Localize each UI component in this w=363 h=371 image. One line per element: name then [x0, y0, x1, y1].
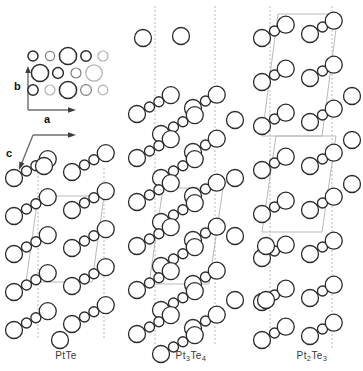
atom-circle [145, 234, 155, 244]
atom-circle [22, 318, 32, 328]
atom-circle [135, 30, 152, 47]
atom-circle [227, 228, 244, 245]
atom-circle [344, 176, 361, 193]
panel-ptte [6, 145, 115, 349]
atom-circle [302, 246, 319, 263]
atom-circle [325, 56, 342, 73]
atom-circle [277, 16, 294, 33]
atom-circle [302, 290, 319, 307]
atom-circle [254, 30, 271, 47]
atom-circle [80, 160, 90, 170]
atom-circle [344, 132, 361, 149]
atom-group-ptte [6, 145, 115, 349]
caption-pt3te4: Pt3Te4 [135, 350, 247, 361]
atom-circle [277, 280, 294, 297]
axis-label-a-top: a [44, 113, 50, 125]
atom-circle [22, 280, 32, 290]
atom-circle [258, 292, 275, 309]
atom-circle [22, 166, 32, 176]
atom-circle [254, 118, 271, 135]
atom-circle [80, 236, 90, 246]
atom-circle [277, 318, 294, 335]
atom-circle [162, 307, 179, 324]
atom-circle [325, 188, 342, 205]
atom-circle [208, 306, 225, 323]
atom-circle [186, 239, 203, 256]
atom-circle [6, 284, 23, 301]
atom-circle [325, 314, 342, 331]
atom-circle [22, 242, 32, 252]
atom-circle [227, 292, 244, 309]
figure-canvas: b a c PtTe Pt3Te4 Pt2Te3 [0, 0, 363, 371]
atom-circle [129, 106, 146, 123]
atom-circle [302, 202, 319, 219]
atom-circle [97, 221, 114, 238]
atom-circle [39, 227, 56, 244]
atom-circle [302, 70, 319, 87]
atom-circle [80, 312, 90, 322]
atom-circle [186, 283, 203, 300]
atom-circle [6, 246, 23, 263]
caption-ptte: PtTe [10, 350, 122, 361]
atom-circle [129, 326, 146, 343]
atom-circle [254, 74, 271, 91]
atom-circle [277, 236, 294, 253]
atom-circle [227, 170, 244, 187]
atom-circle [6, 170, 23, 187]
atom-circle [145, 102, 155, 112]
atom-circle [97, 183, 114, 200]
atom-circle [208, 262, 225, 279]
atom-circle [325, 144, 342, 161]
panel-pt3te4 [129, 6, 244, 363]
panel-pt2te3 [254, 6, 361, 349]
atom-circle [277, 148, 294, 165]
atom-circle [98, 85, 108, 95]
atom-circle [64, 202, 81, 219]
atom-circle [64, 316, 81, 333]
atom-circle [208, 130, 225, 147]
atom-circle [28, 51, 38, 61]
atom-circle [6, 208, 23, 225]
atom-circle [80, 274, 90, 284]
atom-circle [81, 85, 92, 96]
atom-circle [97, 259, 114, 276]
atom-group-pt3te4 [129, 28, 244, 363]
atom-circle [98, 51, 108, 61]
atom-circle [145, 322, 155, 332]
atom-circle [39, 189, 56, 206]
atom-circle [302, 26, 319, 43]
atom-circle [277, 60, 294, 77]
atom-circle [53, 68, 64, 79]
atom-circle [277, 104, 294, 121]
atom-circle [129, 194, 146, 211]
atom-circle [28, 85, 38, 95]
atom-circle [173, 28, 190, 45]
atom-circle [162, 175, 179, 192]
atom-circle [129, 282, 146, 299]
atom-circle [344, 88, 361, 105]
atom-circle [162, 263, 179, 280]
atom-circle [59, 47, 76, 64]
atom-circle [254, 162, 271, 179]
atom-circle [39, 303, 56, 320]
atom-circle [145, 190, 155, 200]
atom-circle [208, 218, 225, 235]
structure-drawing [0, 0, 363, 371]
atom-circle [22, 204, 32, 214]
atom-circle [277, 192, 294, 209]
atom-circle [162, 131, 179, 148]
atom-circle [208, 174, 225, 191]
atom-circle [129, 238, 146, 255]
atom-circle [302, 158, 319, 175]
atom-circle [97, 145, 114, 162]
atom-circle [64, 164, 81, 181]
atom-circle [80, 198, 90, 208]
atom-circle [302, 114, 319, 131]
atom-circle [258, 238, 275, 255]
caption-pt2te3: Pt2Te3 [256, 350, 363, 361]
atom-circle [325, 100, 342, 117]
atom-circle [6, 322, 23, 339]
atom-circle [71, 68, 81, 78]
atom-circle [97, 297, 114, 314]
atom-circle [186, 107, 203, 124]
